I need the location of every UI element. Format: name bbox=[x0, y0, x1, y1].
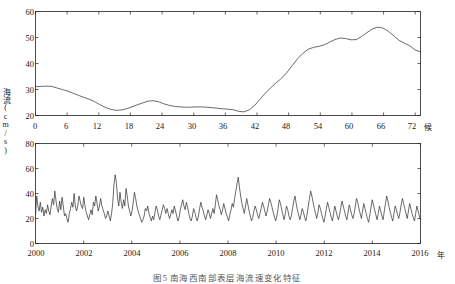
bottom-ytick-20: 20 bbox=[12, 215, 34, 224]
top-xtick-12: 12 bbox=[88, 122, 106, 131]
top-ytick-30: 30 bbox=[12, 86, 34, 95]
top-xtick-60: 60 bbox=[340, 122, 358, 131]
top-ytick-60: 60 bbox=[12, 8, 34, 17]
bottom-panel: 80 60 40 20 0 2000 2002 2004 2006 2008 2… bbox=[0, 138, 455, 263]
top-xtick-24: 24 bbox=[151, 122, 169, 131]
top-data-line bbox=[36, 27, 421, 112]
top-ytick-50: 50 bbox=[12, 34, 34, 43]
bottom-tickmarks bbox=[36, 144, 421, 244]
top-xtick-72: 72 bbox=[403, 122, 421, 131]
bottom-xtick-2016: 2016 bbox=[405, 249, 435, 258]
top-xtick-42: 42 bbox=[246, 122, 264, 131]
top-xtick-66: 66 bbox=[372, 122, 390, 131]
bottom-plot-svg bbox=[0, 138, 455, 263]
bottom-xtick-2010: 2010 bbox=[261, 249, 291, 258]
bottom-ytick-40: 40 bbox=[12, 190, 34, 199]
top-plot-svg bbox=[0, 0, 455, 138]
bottom-data-line bbox=[36, 175, 421, 223]
top-xtick-18: 18 bbox=[120, 122, 138, 131]
top-xtick-6: 6 bbox=[57, 122, 75, 131]
bottom-xtick-2012: 2012 bbox=[309, 249, 339, 258]
top-xtick-0: 0 bbox=[26, 122, 44, 131]
bottom-ytick-60: 60 bbox=[12, 165, 34, 174]
top-xtick-54: 54 bbox=[309, 122, 327, 131]
top-tickmarks bbox=[36, 12, 421, 116]
top-x-unit-label: 候 bbox=[424, 121, 432, 132]
bottom-xtick-2004: 2004 bbox=[117, 249, 147, 258]
bottom-xtick-2006: 2006 bbox=[165, 249, 195, 258]
top-xtick-48: 48 bbox=[277, 122, 295, 131]
bottom-x-unit-label: 年 bbox=[437, 249, 445, 260]
bottom-xtick-2002: 2002 bbox=[69, 249, 99, 258]
top-panel: 60 50 40 30 20 0 6 12 18 24 30 36 42 48 … bbox=[0, 0, 455, 138]
bottom-xtick-2000: 2000 bbox=[21, 249, 51, 258]
top-ytick-20: 20 bbox=[12, 112, 34, 121]
top-xtick-36: 36 bbox=[214, 122, 232, 131]
figure-container: 海流(cm/s) 60 50 40 30 20 0 6 12 18 24 30 … bbox=[0, 0, 455, 284]
bottom-xtick-2014: 2014 bbox=[357, 249, 387, 258]
bottom-xtick-2008: 2008 bbox=[213, 249, 243, 258]
top-xtick-30: 30 bbox=[183, 122, 201, 131]
top-ytick-40: 40 bbox=[12, 60, 34, 69]
bottom-ytick-80: 80 bbox=[12, 140, 34, 149]
figure-caption: 图5 南海西南部表层海流速变化特征 bbox=[0, 271, 455, 283]
